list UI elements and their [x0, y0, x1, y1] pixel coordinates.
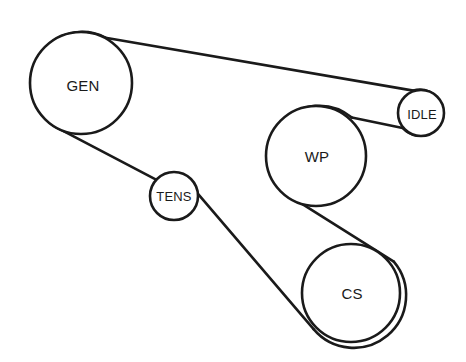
- belt-routing-diagram: GEN IDLE WP TENS CS: [0, 0, 466, 362]
- belt-segment-gen-to-idle: [106, 38, 414, 91]
- pulley-tens-label: TENS: [156, 189, 192, 204]
- pulley-gen-label: GEN: [66, 77, 99, 94]
- pulley-cs-label: CS: [341, 285, 362, 302]
- pulley-wp[interactable]: WP: [266, 106, 366, 206]
- pulley-cs[interactable]: CS: [302, 244, 400, 342]
- pulley-idle[interactable]: IDLE: [398, 90, 444, 136]
- belt-segment-tens-to-gen: [59, 129, 158, 181]
- belt-segment-idle-to-wp: [352, 118, 403, 128]
- pulley-gen[interactable]: GEN: [30, 32, 132, 134]
- pulley-idle-label: IDLE: [407, 107, 437, 122]
- belt-diagram-canvas: GEN IDLE WP TENS CS: [0, 0, 466, 362]
- belt-segment-cs-to-tens: [192, 187, 314, 329]
- pulley-tens[interactable]: TENS: [150, 172, 198, 220]
- pulley-wp-label: WP: [305, 148, 330, 165]
